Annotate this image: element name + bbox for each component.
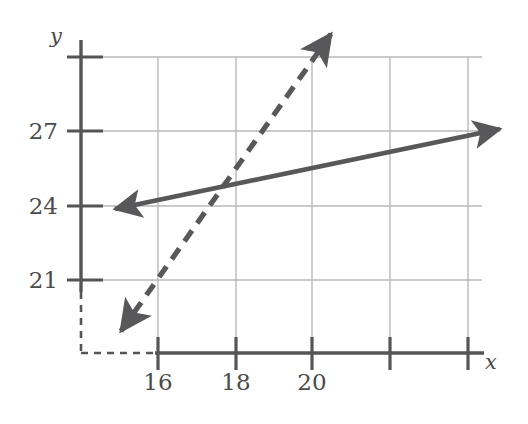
- graph-figure: y x 27 24 21 16 18 20: [0, 0, 528, 424]
- y-tick-label-24: 24: [29, 195, 58, 218]
- x-tick-label-16: 16: [143, 371, 172, 394]
- x-tick-label-20: 20: [297, 371, 326, 394]
- grid-horizontal: [81, 57, 482, 280]
- y-axis-label: y: [50, 26, 62, 47]
- grid-vertical: [158, 57, 468, 353]
- y-axis-ticks: [67, 57, 103, 280]
- x-axis-label: x: [485, 352, 497, 373]
- y-tick-label-27: 27: [29, 120, 58, 143]
- y-tick-label-21: 21: [29, 269, 58, 292]
- solid-line-series: [115, 129, 500, 209]
- x-tick-label-18: 18: [221, 371, 250, 394]
- plot-area: [0, 0, 528, 424]
- dashed-line-series: [121, 34, 331, 331]
